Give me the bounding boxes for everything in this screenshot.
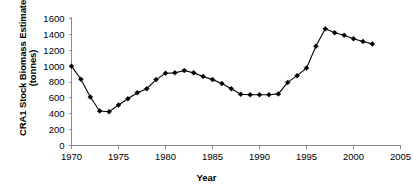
x-tick-label: 1985 xyxy=(202,151,223,162)
y-tick-label-group: 02004006008001000120014001600 xyxy=(43,13,64,151)
x-tick-label: 1975 xyxy=(108,151,129,162)
y-tick-label: 800 xyxy=(49,76,65,87)
data-point-marker xyxy=(201,74,206,79)
y-tick-label: 1400 xyxy=(43,29,64,40)
chart-figure: CRA1 Stock Biomass Estimate (tonnes) 020… xyxy=(0,0,413,191)
data-point-marker xyxy=(313,44,318,49)
x-tick-label: 2000 xyxy=(343,151,364,162)
data-point-marker xyxy=(210,77,215,82)
plot-area: 02004006008001000120014001600 1970197519… xyxy=(0,0,413,191)
data-point-marker xyxy=(191,70,196,75)
x-tick-label: 2005 xyxy=(390,151,411,162)
data-point-marker xyxy=(172,70,177,75)
data-point-marker xyxy=(323,26,328,31)
x-tick-label: 1990 xyxy=(249,151,270,162)
data-point-marker xyxy=(342,33,347,38)
y-tick-label: 1200 xyxy=(43,45,64,56)
y-tick-label: 600 xyxy=(49,92,65,103)
y-tick-label: 200 xyxy=(49,124,65,135)
biomass-series-markers xyxy=(69,26,375,114)
data-point-marker xyxy=(248,92,253,97)
y-tick-label: 1600 xyxy=(43,13,64,24)
data-point-marker xyxy=(219,81,224,86)
x-axis-title: Year xyxy=(0,172,413,183)
data-point-marker xyxy=(360,39,365,44)
data-point-marker xyxy=(266,92,271,97)
biomass-series-line xyxy=(72,29,373,112)
x-tick-label: 1995 xyxy=(296,151,317,162)
y-tick-label: 400 xyxy=(49,108,65,119)
data-point-marker xyxy=(238,92,243,97)
data-point-marker xyxy=(332,30,337,35)
y-tick-label: 1000 xyxy=(43,61,64,72)
x-tick-label: 1970 xyxy=(61,151,82,162)
data-point-marker xyxy=(370,41,375,46)
y-tick-label: 0 xyxy=(59,140,64,151)
data-point-marker xyxy=(351,36,356,41)
data-point-marker xyxy=(257,92,262,97)
x-tick-label: 1980 xyxy=(155,151,176,162)
data-point-marker xyxy=(182,68,187,73)
x-tick-label-group: 19701975198019851990199520002005 xyxy=(61,151,411,162)
data-point-marker xyxy=(229,86,234,91)
